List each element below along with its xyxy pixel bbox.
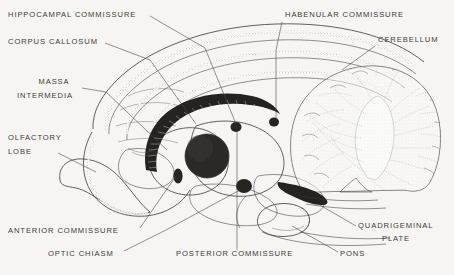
anterior-commissure-dot — [173, 169, 182, 184]
label-cerebellum: CEREBELLUM — [378, 35, 438, 44]
label-olfactory: OLFACTORY — [8, 133, 62, 142]
label-posterior-commissure: POSTERIOR COMMISSURE — [176, 249, 293, 258]
label-intermedia: INTERMEDIA — [17, 91, 73, 100]
label-optic-chiasm: OPTIC CHIASM — [48, 249, 114, 258]
label-plate: PLATE — [382, 234, 410, 243]
label-lobe: LOBE — [8, 147, 32, 156]
label-corpus-callosum: CORPUS CALLOSUM — [8, 37, 98, 46]
label-quadrigeminal: QUADRIGEMINAL — [358, 221, 433, 230]
label-hippocampal-commissure: HIPPOCAMPAL COMMISSURE — [8, 10, 136, 19]
habenular-commissure-dot — [269, 117, 279, 126]
label-massa: MASSA — [38, 77, 69, 86]
label-anterior-commissure: ANTERIOR COMMISSURE — [8, 226, 119, 235]
massa-intermedia — [185, 134, 229, 178]
label-pons: PONS — [340, 249, 365, 258]
brain-anatomy-diagram: HIPPOCAMPAL COMMISSURE CORPUS CALLOSUM M… — [0, 0, 454, 275]
label-habenular-commissure: HABENULAR COMMISSURE — [285, 10, 404, 19]
